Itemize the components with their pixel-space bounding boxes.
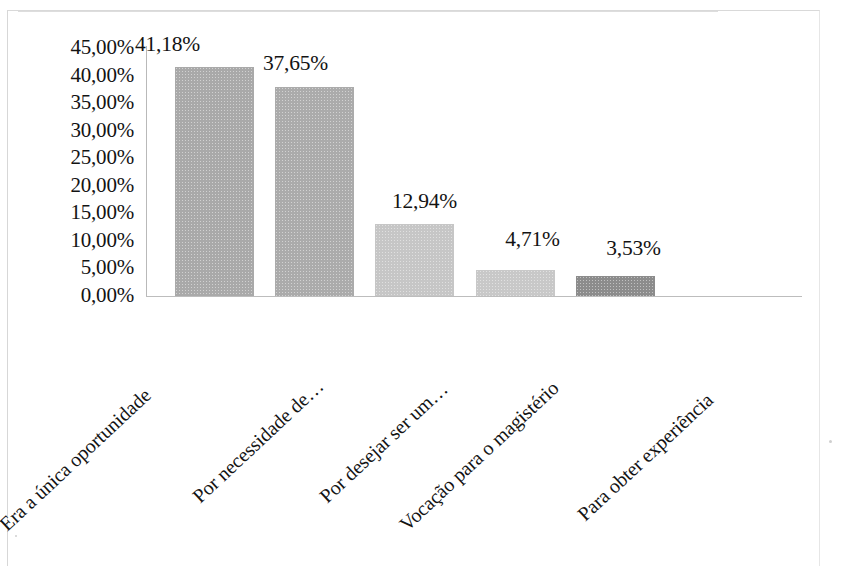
x-category-label-para-obter-experiencia: Para obter experiência — [573, 388, 717, 525]
bar-value-label: 4,71% — [480, 228, 585, 250]
bar-era-a-unica-oportunidade[interactable] — [175, 67, 254, 296]
bar-value-label: 37,65% — [243, 52, 348, 74]
scan-grain — [576, 276, 655, 296]
bar-column — [375, 46, 454, 296]
scan-grain — [476, 270, 555, 296]
y-tick-label: 30,00% — [26, 120, 134, 141]
scan-grain — [375, 224, 454, 296]
y-tick-label: 20,00% — [26, 175, 134, 196]
y-tick-label: 5,00% — [26, 257, 134, 278]
y-tick-label: 10,00% — [26, 230, 134, 251]
y-tick-label: 25,00% — [26, 147, 134, 168]
scan-grain — [275, 87, 354, 296]
x-axis-line — [146, 296, 802, 297]
y-tick-label: 35,00% — [26, 92, 134, 113]
bar-chart: 45,00% 40,00% 35,00% 30,00% 25,00% 20,00… — [0, 0, 845, 578]
scan-speck — [829, 440, 832, 443]
scan-speck — [15, 535, 17, 537]
y-tick-label: 0,00% — [26, 285, 134, 306]
bar-column — [275, 46, 354, 296]
bar-value-label: 3,53% — [581, 237, 686, 259]
bar-column — [175, 46, 254, 296]
y-tick-label: 15,00% — [26, 202, 134, 223]
bar-por-necessidade-de[interactable] — [275, 87, 354, 296]
x-category-label-era-a-unica-oportunidade: Era a única oportunidade — [0, 384, 155, 535]
plot-area — [147, 46, 803, 296]
x-category-label-por-necessidade-de: Por necessidade de… — [188, 375, 328, 507]
bar-para-obter-experiencia[interactable] — [576, 276, 655, 296]
bar-value-label: 41,18% — [115, 33, 220, 55]
y-tick-label: 40,00% — [26, 65, 134, 86]
bar-por-desejar-ser-um[interactable] — [375, 224, 454, 296]
scan-grain — [175, 67, 254, 296]
bar-vocacao-para-o-magisterio[interactable] — [476, 270, 555, 296]
bar-value-label: 12,94% — [372, 190, 477, 212]
bar-column — [476, 46, 555, 296]
